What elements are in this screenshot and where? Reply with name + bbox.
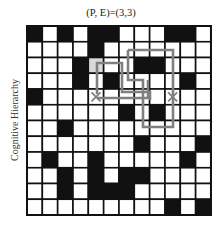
- empty-cell: [73, 184, 88, 200]
- wall-cell: [134, 58, 149, 74]
- empty-cell: [180, 121, 195, 137]
- empty-cell: [27, 152, 42, 168]
- empty-cell: [165, 136, 180, 152]
- wall-cell: [104, 184, 119, 200]
- wall-cell: [42, 152, 57, 168]
- empty-cell: [58, 73, 73, 89]
- empty-cell: [27, 121, 42, 137]
- empty-cell: [73, 199, 88, 215]
- empty-cell: [196, 184, 211, 200]
- empty-cell: [196, 121, 211, 137]
- wall-cell: [88, 42, 103, 58]
- empty-cell: [165, 152, 180, 168]
- empty-cell: [196, 168, 211, 184]
- empty-cell: [180, 184, 195, 200]
- empty-cell: [27, 73, 42, 89]
- empty-cell: [150, 26, 165, 42]
- empty-cell: [58, 136, 73, 152]
- empty-cell: [42, 168, 57, 184]
- empty-cell: [180, 105, 195, 121]
- empty-cell: [73, 152, 88, 168]
- empty-cell: [180, 199, 195, 215]
- empty-cell: [150, 199, 165, 215]
- empty-cell: [58, 105, 73, 121]
- wall-cell: [88, 152, 103, 168]
- empty-cell: [27, 136, 42, 152]
- empty-cell: [104, 121, 119, 137]
- empty-cell: [180, 42, 195, 58]
- empty-cell: [165, 168, 180, 184]
- wall-cell: [196, 199, 211, 215]
- empty-cell: [150, 168, 165, 184]
- empty-cell: [119, 121, 134, 137]
- empty-cell: [104, 136, 119, 152]
- empty-cell: [104, 58, 119, 74]
- empty-cell: [104, 199, 119, 215]
- empty-cell: [42, 26, 57, 42]
- empty-cell: [58, 89, 73, 105]
- empty-cell: [42, 58, 57, 74]
- empty-cell: [58, 152, 73, 168]
- wall-cell: [58, 121, 73, 137]
- empty-cell: [150, 73, 165, 89]
- empty-cell: [42, 42, 57, 58]
- empty-cell: [150, 136, 165, 152]
- empty-cell: [150, 89, 165, 105]
- empty-cell: [134, 184, 149, 200]
- empty-cell: [119, 136, 134, 152]
- wall-cell: [180, 26, 195, 42]
- empty-cell: [58, 42, 73, 58]
- empty-cell: [180, 89, 195, 105]
- wall-cell: [58, 26, 73, 42]
- empty-cell: [88, 105, 103, 121]
- wall-cell: [73, 58, 88, 74]
- empty-cell: [150, 152, 165, 168]
- wall-cell: [27, 89, 42, 105]
- empty-cell: [104, 168, 119, 184]
- empty-cell: [165, 184, 180, 200]
- wall-cell: [180, 152, 195, 168]
- empty-cell: [42, 73, 57, 89]
- empty-cell: [58, 58, 73, 74]
- grid-world: [0, 0, 222, 226]
- wall-cell: [134, 168, 149, 184]
- empty-cell: [42, 121, 57, 137]
- wall-cell: [134, 136, 149, 152]
- wall-cell: [119, 105, 134, 121]
- wall-cell: [88, 26, 103, 42]
- wall-cell: [58, 184, 73, 200]
- wall-cell: [165, 26, 180, 42]
- empty-cell: [180, 168, 195, 184]
- wall-cell: [150, 105, 165, 121]
- empty-cell: [73, 136, 88, 152]
- empty-cell: [73, 168, 88, 184]
- empty-cell: [73, 105, 88, 121]
- wall-cell: [104, 26, 119, 42]
- wall-cell: [119, 184, 134, 200]
- empty-cell: [27, 58, 42, 74]
- empty-cell: [196, 58, 211, 74]
- empty-cell: [27, 199, 42, 215]
- empty-cell: [104, 42, 119, 58]
- empty-cell: [196, 105, 211, 121]
- empty-cell: [73, 26, 88, 42]
- empty-cell: [27, 184, 42, 200]
- empty-cell: [134, 26, 149, 42]
- empty-cell: [42, 89, 57, 105]
- empty-cell: [27, 105, 42, 121]
- wall-cell: [165, 199, 180, 215]
- empty-cell: [134, 199, 149, 215]
- empty-cell: [27, 168, 42, 184]
- empty-cell: [58, 199, 73, 215]
- empty-cell: [119, 26, 134, 42]
- wall-cell: [196, 136, 211, 152]
- empty-cell: [119, 152, 134, 168]
- wall-cell: [119, 168, 134, 184]
- empty-cell: [196, 89, 211, 105]
- empty-cell: [180, 136, 195, 152]
- wall-cell: [88, 168, 103, 184]
- empty-cell: [73, 121, 88, 137]
- wall-cell: [27, 26, 42, 42]
- empty-cell: [134, 152, 149, 168]
- wall-cell: [180, 73, 195, 89]
